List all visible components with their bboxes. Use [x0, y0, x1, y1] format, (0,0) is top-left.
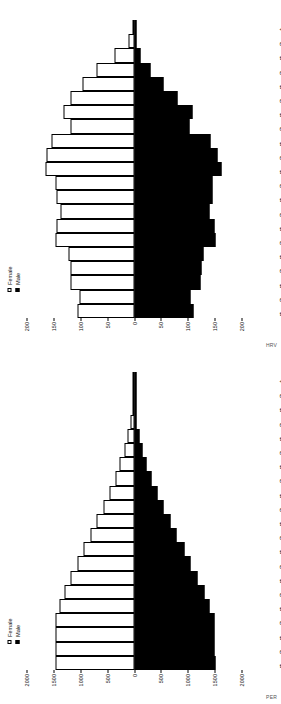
bar-male	[134, 429, 139, 443]
category-axis-tick: 25–29	[279, 592, 281, 598]
bar-female	[114, 48, 133, 62]
bar-female	[55, 627, 134, 641]
bar-male	[134, 176, 212, 190]
pyramid-age-group	[26, 429, 241, 443]
category-axis-tick: 35–39	[279, 212, 281, 218]
value-axis: 2000150010005000500100015002000	[26, 670, 241, 704]
bar-male	[134, 656, 215, 670]
tick-mark	[80, 318, 81, 321]
bar-male	[134, 542, 184, 556]
bar-female	[70, 119, 133, 133]
category-axis-tick: 60–64	[279, 141, 281, 147]
pyramid-age-group	[26, 486, 241, 500]
pyramid-age-group	[26, 247, 241, 261]
bar-male	[134, 290, 191, 304]
value-axis-tick: 0	[131, 674, 137, 677]
pyramid-age-group	[26, 20, 241, 34]
bar-male	[134, 386, 136, 400]
pyramid-age-group	[26, 105, 241, 119]
pyramid-age-group	[26, 134, 241, 148]
bar-male	[134, 91, 178, 105]
value-axis-tick: 2000	[23, 674, 29, 686]
bar-male	[134, 585, 204, 599]
bar-male	[134, 528, 177, 542]
pyramid-age-group	[26, 457, 241, 471]
category-axis-tick: 35–39	[279, 564, 281, 570]
pyramid-age-group	[26, 557, 241, 571]
female-swatch-icon	[7, 288, 11, 292]
category-axis-tick: 30–34	[279, 226, 281, 232]
bar-female	[96, 63, 133, 77]
bar-male	[134, 205, 209, 219]
value-axis-tick: 0	[131, 322, 137, 325]
bar-female	[45, 162, 134, 176]
tick-mark	[134, 318, 135, 321]
pyramid-age-group	[26, 148, 241, 162]
tick-mark	[214, 670, 215, 673]
category-axis-tick: 65–69	[279, 478, 281, 484]
bar-female	[79, 290, 133, 304]
panel-code-hrv: HRV	[266, 342, 277, 348]
bar-male	[134, 571, 198, 585]
tick-mark	[80, 670, 81, 673]
tick-mark	[53, 318, 54, 321]
bar-male	[134, 247, 203, 261]
value-axis-tick: 150	[211, 322, 217, 331]
bar-female	[59, 599, 133, 613]
value-axis-tick: 1000	[77, 674, 83, 686]
category-axis: 0–45–910–1415–1920–2425–2930–3435–3940–4…	[241, 20, 281, 318]
legend-label-male: Male	[14, 273, 20, 285]
category-axis-tick: 70–74	[279, 464, 281, 470]
bar-female	[55, 176, 133, 190]
bar-male	[134, 627, 215, 641]
category-axis-tick: 80–84	[279, 436, 281, 442]
bar-female	[128, 34, 133, 48]
value-axis-tick: 500	[104, 674, 110, 683]
chart-legend: Female Male	[6, 618, 20, 644]
figure-canvas: 20015010050050100150200 0–45–910–1415–19…	[0, 0, 281, 704]
value-axis-tick: 50	[157, 322, 163, 328]
pyramid-age-group	[26, 261, 241, 275]
bar-female	[127, 429, 133, 443]
pyramid-age-group	[26, 219, 241, 233]
tick-mark	[241, 318, 242, 321]
legend-entry-female: Female	[6, 266, 12, 292]
value-axis-tick: 100	[184, 322, 190, 331]
pyramid-age-group	[26, 599, 241, 613]
value-axis-tick: 1500	[50, 674, 56, 686]
category-axis-tick: 0–4	[279, 663, 281, 669]
category-axis-tick: 55–59	[279, 155, 281, 161]
pyramid-age-group	[26, 528, 241, 542]
pyramid-age-group	[26, 48, 241, 62]
pyramid-age-group	[26, 233, 241, 247]
bar-female	[56, 219, 134, 233]
legend-label-female: Female	[6, 266, 12, 285]
pyramid-age-group	[26, 514, 241, 528]
value-axis-tick: 1500	[211, 674, 217, 686]
value-axis-tick: 500	[157, 674, 163, 683]
bar-female	[82, 77, 133, 91]
bar-male	[134, 486, 157, 500]
bar-male	[134, 261, 202, 275]
pyramid-age-group	[26, 585, 241, 599]
tick-mark	[107, 318, 108, 321]
pyramid-age-group	[26, 571, 241, 585]
tick-mark	[53, 670, 54, 673]
category-axis-tick: 100+	[279, 27, 281, 33]
bar-male	[134, 48, 140, 62]
plot-area	[26, 20, 241, 318]
bar-male	[134, 514, 170, 528]
bar-male	[134, 471, 151, 485]
bar-female	[68, 247, 134, 261]
female-swatch-icon	[7, 640, 11, 644]
pyramid-age-group	[26, 290, 241, 304]
pyramid-age-group	[26, 190, 241, 204]
bar-male	[134, 77, 164, 91]
pyramid-age-group	[26, 372, 241, 386]
pyramid-age-group	[26, 162, 241, 176]
category-axis-tick: 10–14	[279, 283, 281, 289]
bar-female	[55, 642, 134, 656]
pyramid-age-group	[26, 34, 241, 48]
pyramid-age-group	[26, 176, 241, 190]
population-pyramid-chart: 20015010050050100150200 0–45–910–1415–19…	[0, 0, 281, 352]
